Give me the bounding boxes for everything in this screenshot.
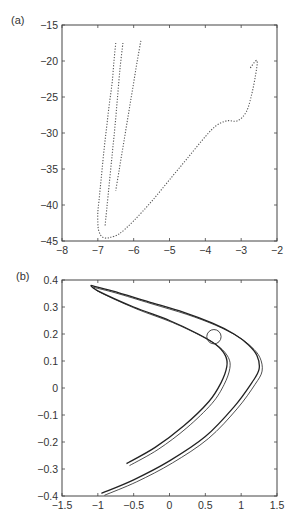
y-tick-label: 0.2	[43, 328, 58, 340]
y-tick-label: −0.2	[37, 436, 58, 448]
data-series	[116, 41, 141, 191]
plot-panel-b: −1.5−1−0.500.511.50.40.30.20.10−0.1−0.2−…	[37, 274, 284, 511]
data-series-band	[94, 287, 231, 465]
plot-frame	[62, 280, 277, 496]
x-tick-label: 0.5	[198, 499, 213, 511]
data-series	[110, 60, 257, 237]
highlight-circle	[207, 330, 221, 344]
x-tick-label: −5	[164, 244, 176, 256]
y-tick-label: 0	[52, 382, 58, 394]
data-series	[105, 43, 123, 227]
y-tick-label: −15	[40, 19, 58, 31]
data-series	[91, 285, 260, 493]
y-tick-label: −30	[40, 127, 58, 139]
y-tick-label: −40	[40, 199, 58, 211]
y-tick-label: −0.4	[37, 490, 58, 502]
y-tick-label: 0.1	[43, 355, 58, 367]
x-tick-label: −1	[92, 499, 104, 511]
y-tick-label: −35	[40, 163, 58, 175]
data-series-band	[94, 287, 263, 495]
y-tick-label: 0.4	[43, 274, 58, 286]
y-tick-label: −20	[40, 55, 58, 67]
x-tick-label: −0.5	[123, 499, 144, 511]
y-tick-label: −0.3	[37, 463, 58, 475]
x-tick-label: 1	[238, 499, 244, 511]
x-tick-label: −7	[92, 244, 104, 256]
y-tick-label: −0.1	[37, 409, 58, 421]
data-series	[91, 285, 228, 463]
y-tick-label: 0.3	[43, 301, 58, 313]
y-tick-label: −25	[40, 91, 58, 103]
x-tick-label: −4	[199, 244, 211, 256]
figure-canvas: −8−7−6−5−4−3−2−15−20−25−30−35−40−45−1.5−…	[0, 0, 294, 522]
y-tick-label: −45	[40, 235, 58, 247]
x-tick-label: −2	[271, 244, 283, 256]
x-tick-label: −3	[235, 244, 247, 256]
x-tick-label: −6	[128, 244, 140, 256]
plot-frame	[62, 25, 277, 241]
x-tick-label: 0	[167, 499, 173, 511]
x-tick-label: 1.5	[270, 499, 285, 511]
plot-panel-a: −8−7−6−5−4−3−2−15−20−25−30−35−40−45	[40, 19, 283, 256]
